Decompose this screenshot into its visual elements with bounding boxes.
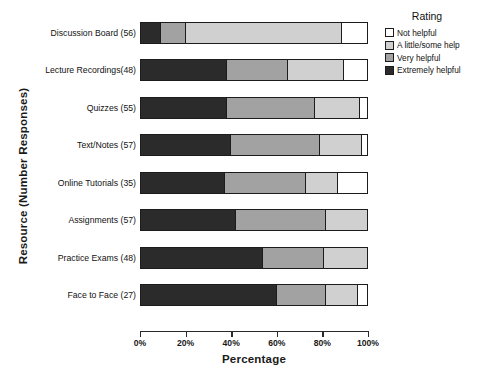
bar-segment [344,60,367,80]
bar-segment [141,60,227,80]
legend-entry[interactable]: Very helpful [385,52,480,63]
bar-segment [141,173,225,193]
x-axis-label: Percentage [140,353,368,365]
stacked-bar [140,247,368,269]
stacked-bar-chart: Resource (Number Responses) Discussion B… [0,0,480,382]
x-axis-tick-label: 20% [163,338,209,348]
legend-entry-label: Extremely helpful [397,65,461,75]
bar-row [140,284,368,306]
bar-segment [227,98,315,118]
x-axis-tick-label: 100% [345,338,391,348]
bar-row [140,59,368,81]
bar-segment [320,135,363,155]
legend-entry[interactable]: Not helpful [385,27,480,38]
bar-segment [315,98,360,118]
bar-segment [288,60,345,80]
legend-swatch-icon [385,53,394,62]
bar-segment [362,135,367,155]
bar-row [140,134,368,156]
bar-segment [263,248,324,268]
bar-segment [358,285,367,305]
bar-segment [324,248,367,268]
plot-area [140,14,368,314]
stacked-bar [140,172,368,194]
x-axis-tick [277,331,278,337]
category-label: Quizzes (55) [18,103,136,113]
stacked-bar [140,284,368,306]
bar-segment [141,23,161,43]
stacked-bar [140,209,368,231]
bar-row [140,22,368,44]
bar-segment [141,210,236,230]
bar-segment [306,173,338,193]
x-axis-tick [322,331,323,337]
bar-segment [326,210,367,230]
bar-segment [231,135,319,155]
stacked-bar [140,97,368,119]
bar-segment [141,135,231,155]
category-label: Lecture Recordings(48) [18,65,136,75]
bar-segment [161,23,186,43]
bar-segment [360,98,367,118]
bar-row [140,209,368,231]
legend-entry[interactable]: Extremely helpful [385,65,480,76]
category-label: Text/Notes (57) [18,140,136,150]
bar-segment [338,173,367,193]
legend-entry-label: A little/some help [397,40,460,50]
legend-entry-label: Not helpful [397,28,437,38]
bar-segment [186,23,342,43]
legend-swatch-icon [385,66,394,75]
x-axis-tick [186,331,187,337]
bar-segment [141,248,263,268]
stacked-bar [140,59,368,81]
bar-segment [227,60,288,80]
bar-segment [236,210,326,230]
legend-swatch-icon [385,41,394,50]
bar-row [140,247,368,269]
category-label: Face to Face (27) [18,290,136,300]
category-label: Assignments (57) [18,215,136,225]
legend: Rating Not helpfulA little/some helpVery… [385,10,480,77]
bar-segment [342,23,367,43]
category-label: Online Tutorials (35) [18,178,136,188]
bar-segment [141,98,227,118]
x-axis-tick [231,331,232,337]
bar-row [140,172,368,194]
legend-swatch-icon [385,28,394,37]
x-axis-line [140,331,368,332]
category-label: Practice Exams (48) [18,253,136,263]
legend-entries: Not helpfulA little/some helpVery helpfu… [385,27,480,76]
legend-entry[interactable]: A little/some help [385,40,480,51]
legend-entry-label: Very helpful [397,53,440,63]
bar-segment [277,285,327,305]
stacked-bar [140,134,368,156]
x-axis-tick-label: 40% [208,338,254,348]
stacked-bar [140,22,368,44]
bar-segment [141,285,277,305]
x-axis-tick [140,331,141,337]
x-axis-tick-label: 0% [117,338,163,348]
category-label-column: Discussion Board (56)Lecture Recordings(… [18,14,136,314]
x-axis-tick [368,331,369,337]
legend-title: Rating [385,10,469,22]
bar-segment [225,173,306,193]
category-label: Discussion Board (56) [18,28,136,38]
x-axis-tick-label: 80% [299,338,345,348]
bar-row [140,97,368,119]
bar-segment [326,285,358,305]
x-axis-tick-label: 60% [254,338,300,348]
